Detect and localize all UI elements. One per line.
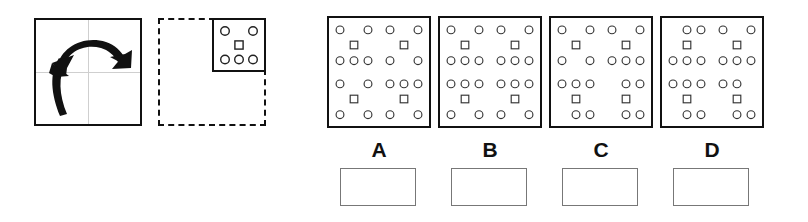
- glyph-circle: [447, 57, 455, 65]
- glyph-circle: [525, 26, 533, 34]
- glyph-circle: [733, 111, 741, 119]
- option-b[interactable]: B: [438, 16, 542, 128]
- glyph-circle: [733, 80, 741, 88]
- glyph-circle: [697, 80, 705, 88]
- glyph-circle: [497, 57, 505, 65]
- glyph-circle: [747, 111, 755, 119]
- motif-cell-top-right: [212, 18, 266, 72]
- glyph-circle: [558, 80, 566, 88]
- rotation-arrows-graphic: [36, 20, 140, 124]
- glyph-square: [622, 95, 630, 103]
- glyph-circle: [525, 80, 533, 88]
- glyph-circle: [733, 57, 741, 65]
- glyph-circle: [414, 80, 422, 88]
- glyph-square: [235, 41, 243, 49]
- glyph-circle: [336, 57, 344, 65]
- glyph-circle: [386, 57, 394, 65]
- option-a-answer-box[interactable]: [340, 168, 416, 206]
- quadrant-bottom-left: [558, 80, 594, 119]
- option-a[interactable]: A: [327, 16, 431, 128]
- glyph-square: [733, 41, 741, 49]
- glyph-circle: [414, 26, 422, 34]
- glyph-square: [511, 95, 519, 103]
- glyph-circle: [475, 57, 483, 65]
- glyph-circle: [497, 26, 505, 34]
- quadrant-bottom-right: [719, 80, 755, 119]
- dashed-target-box: [158, 18, 266, 126]
- option-d[interactable]: D: [660, 16, 764, 128]
- glyph-circle: [747, 26, 755, 34]
- quadrant-top-right: [719, 26, 755, 65]
- glyph-square: [572, 41, 580, 49]
- glyph-square: [461, 95, 469, 103]
- glyph-circle: [622, 57, 630, 65]
- glyph-circle: [511, 57, 519, 65]
- option-d-panel[interactable]: [660, 16, 764, 128]
- quadrant-bottom-left: [447, 80, 483, 119]
- option-c-answer-box[interactable]: [562, 168, 638, 206]
- glyph-circle: [697, 26, 705, 34]
- glyph-circle: [447, 80, 455, 88]
- puzzle-page: A B C D: [0, 0, 808, 222]
- glyph-circle: [400, 80, 408, 88]
- glyph-circle: [221, 55, 230, 64]
- glyph-circle: [461, 80, 469, 88]
- glyph-circle: [336, 80, 344, 88]
- quadrant-top-left: [558, 26, 594, 65]
- option-b-label: B: [438, 138, 542, 162]
- glyph-circle: [572, 111, 580, 119]
- glyph-square: [683, 41, 691, 49]
- base-motif-graphic: [214, 20, 264, 70]
- glyph-circle: [608, 26, 616, 34]
- glyph-circle: [414, 111, 422, 119]
- option-c[interactable]: C: [549, 16, 653, 128]
- glyph-circle: [558, 26, 566, 34]
- glyph-circle: [525, 111, 533, 119]
- glyph-circle: [586, 57, 594, 65]
- glyph-circle: [475, 80, 483, 88]
- glyph-circle: [336, 111, 344, 119]
- glyph-circle: [221, 27, 230, 36]
- glyph-circle: [511, 80, 519, 88]
- option-b-graphic: [440, 18, 540, 126]
- rotation-instruction-box: [34, 18, 142, 126]
- quadrant-bottom-right: [386, 80, 422, 119]
- base-motif: [221, 27, 258, 64]
- glyph-circle: [249, 27, 258, 36]
- glyph-square: [572, 95, 580, 103]
- quadrant-top-right: [386, 26, 422, 65]
- option-d-label: D: [660, 138, 764, 162]
- glyph-circle: [558, 57, 566, 65]
- glyph-circle: [386, 26, 394, 34]
- glyph-circle: [719, 57, 727, 65]
- glyph-circle: [719, 26, 727, 34]
- glyph-circle: [719, 80, 727, 88]
- option-b-panel[interactable]: [438, 16, 542, 128]
- glyph-circle: [364, 111, 372, 119]
- glyph-square: [400, 95, 408, 103]
- quadrant-top-left: [447, 26, 483, 65]
- option-a-graphic: [329, 18, 429, 126]
- option-c-panel[interactable]: [549, 16, 653, 128]
- glyph-circle: [336, 26, 344, 34]
- option-d-graphic: [662, 18, 762, 126]
- glyph-circle: [447, 26, 455, 34]
- glyph-circle: [683, 111, 691, 119]
- glyph-circle: [608, 57, 616, 65]
- glyph-circle: [414, 57, 422, 65]
- glyph-circle: [350, 57, 358, 65]
- glyph-square: [622, 41, 630, 49]
- quadrant-top-left: [336, 26, 372, 65]
- option-d-answer-box[interactable]: [673, 168, 749, 206]
- glyph-circle: [636, 111, 644, 119]
- glyph-circle: [586, 111, 594, 119]
- quadrant-top-right: [497, 26, 533, 65]
- glyph-circle: [525, 57, 533, 65]
- quadrant-top-right: [608, 26, 644, 65]
- glyph-circle: [364, 26, 372, 34]
- glyph-circle: [364, 80, 372, 88]
- option-a-panel[interactable]: [327, 16, 431, 128]
- glyph-square: [400, 41, 408, 49]
- glyph-circle: [697, 57, 705, 65]
- option-b-answer-box[interactable]: [451, 168, 527, 206]
